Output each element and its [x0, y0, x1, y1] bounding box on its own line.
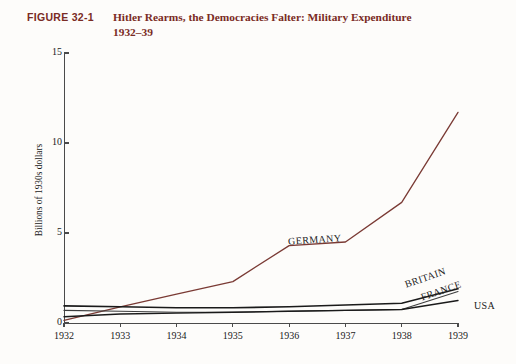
chart-plot-area: Billions of 1930s dollars 051015 1932193…: [0, 0, 516, 364]
series-label-usa: USA: [474, 300, 495, 311]
figure-container: FIGURE 32-1 Hitler Rearms, the Democraci…: [0, 0, 516, 364]
series-lines: [0, 0, 516, 364]
series-line-britain: [64, 289, 458, 308]
series-line-germany: [64, 112, 458, 320]
